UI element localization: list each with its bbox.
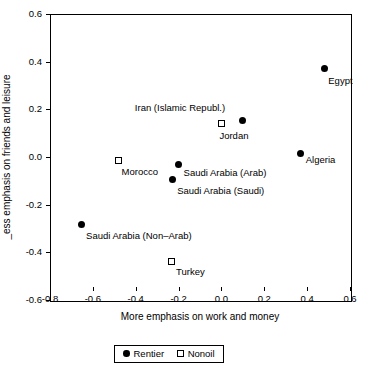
open-square-icon: [177, 350, 184, 357]
x-axis-tick-label: 0.6: [330, 293, 365, 304]
scatter-plot-figure: -0.8-0.6-0.4-0.20.00.20.40.60.60.40.20.0…: [0, 0, 365, 369]
data-point-label: Morocco: [122, 166, 158, 177]
x-axis-tick-label: 0.0: [201, 293, 241, 304]
y-axis-tick: [46, 205, 50, 206]
data-point-label: Turkey: [176, 266, 205, 277]
y-axis-title: _ess emphasis on friends and leisure: [0, 14, 14, 300]
legend-entry-label: Rentier: [134, 348, 165, 359]
y-axis-tick: [46, 62, 50, 63]
filled-circle-icon: [123, 350, 130, 357]
x-axis-tick: [350, 287, 351, 291]
x-axis-title: More emphasis on work and money: [50, 311, 350, 323]
x-axis-tick-label: -0.6: [73, 293, 113, 304]
x-axis-tick: [307, 287, 308, 291]
data-point-label: Jordan: [219, 130, 248, 141]
data-point-marker[interactable]: [168, 258, 175, 265]
data-point-label: Saudi Arabia (Saudi): [177, 185, 264, 196]
x-axis-tick: [93, 287, 94, 291]
legend-entry[interactable]: Nonoil: [177, 348, 214, 359]
data-point-marker[interactable]: [78, 221, 85, 228]
y-axis-tick: [46, 300, 50, 301]
legend-entry[interactable]: Rentier: [123, 348, 164, 359]
data-point-label: Algeria: [306, 154, 336, 165]
x-axis-tick: [264, 287, 265, 291]
y-axis-tick: [46, 109, 50, 110]
x-axis-tick: [221, 287, 222, 291]
data-point-label: Egypt: [328, 75, 352, 86]
x-axis-tick-label: -0.2: [159, 293, 199, 304]
data-point-label: Saudi Arabia (Non–Arab): [86, 230, 192, 241]
x-axis-tick: [50, 287, 51, 291]
legend-entry-label: Nonoil: [188, 348, 215, 359]
x-axis-tick: [136, 287, 137, 291]
y-axis-tick: [46, 252, 50, 253]
x-axis-tick-label: -0.4: [116, 293, 156, 304]
x-axis-tick: [179, 287, 180, 291]
y-axis-tick: [46, 157, 50, 158]
data-point-marker[interactable]: [115, 157, 122, 164]
data-point-marker[interactable]: [169, 176, 176, 183]
data-point-marker[interactable]: [239, 117, 246, 124]
x-axis-tick-label: 0.2: [244, 293, 284, 304]
chart-legend: RentierNonoil: [114, 345, 224, 363]
y-axis-tick: [46, 14, 50, 15]
data-point-label: Saudi Arabia (Arab): [184, 167, 267, 178]
x-axis-tick-label: 0.4: [287, 293, 327, 304]
data-point-marker[interactable]: [218, 120, 225, 127]
data-point-label: Iran (Islamic Republ.): [135, 102, 225, 113]
data-point-marker[interactable]: [175, 161, 182, 168]
